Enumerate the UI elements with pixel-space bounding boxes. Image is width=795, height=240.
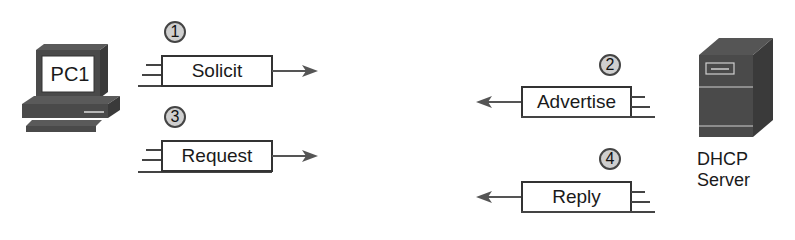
step-1-badge: 1 [164,21,186,43]
pc1-label: PC1 [45,63,95,86]
solicit-tail-line [146,64,161,66]
step-3-badge: 3 [164,106,186,128]
advertise-tail-line [631,106,650,108]
reply-tail-line [521,211,655,213]
request-message-box: Request [161,140,273,172]
pc-icon [20,42,125,134]
request-tail-line [146,149,161,151]
dhcp-server-device [697,36,775,140]
server-label: DHCP Server [697,149,750,191]
arrow-right-icon [272,64,322,78]
arrow-left-icon [474,190,524,204]
advertise-message-box: Advertise [521,86,632,118]
reply-tail-line [631,201,650,203]
reply-message-box: Reply [521,181,632,213]
server-label-line1: DHCP [697,149,750,170]
advertise-label: Advertise [537,91,616,113]
pc1-device: PC1 [20,42,125,134]
reply-tail-line [631,191,645,193]
request-label: Request [182,145,253,167]
step-4-badge: 4 [599,148,621,170]
step-2-badge: 2 [599,54,621,76]
arrow-right-icon [272,149,322,163]
server-label-line2: Server [697,170,750,191]
solicit-label: Solicit [192,60,243,82]
solicit-tail-line [142,74,161,76]
server-icon [697,36,775,140]
advertise-tail-line [521,116,655,118]
request-tail-line [142,159,161,161]
reply-label: Reply [552,186,601,208]
solicit-message-box: Solicit [161,55,273,87]
arrow-left-icon [474,95,524,109]
advertise-tail-line [631,96,645,98]
